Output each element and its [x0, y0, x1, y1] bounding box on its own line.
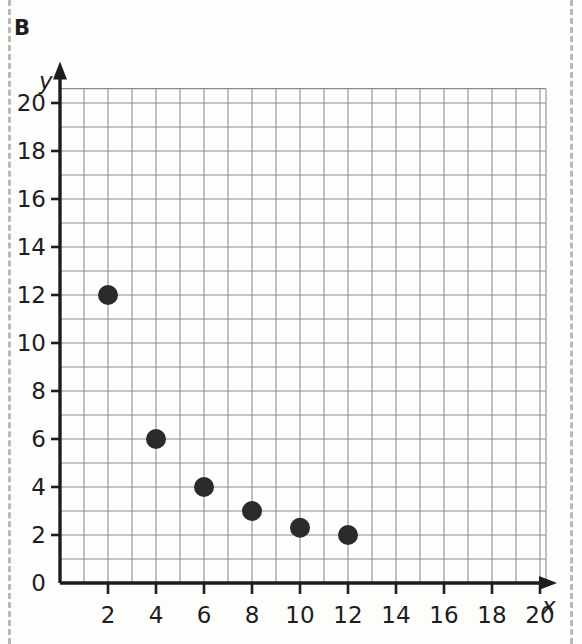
data-point — [290, 518, 310, 538]
y-tick-label: 12 — [17, 282, 46, 308]
y-tick-label: 0 — [31, 570, 46, 596]
figure-panel: B 024681012141618202468101214161820 yx — [0, 0, 582, 644]
y-tick-label: 8 — [31, 378, 46, 404]
y-tick-label: 14 — [17, 234, 46, 260]
x-axis-label: x — [541, 593, 556, 619]
axis-tick-labels: 024681012141618202468101214161820 — [17, 90, 555, 629]
x-tick-label: 4 — [149, 602, 164, 628]
y-tick-label: 2 — [31, 522, 46, 548]
x-tick-label: 2 — [101, 602, 116, 628]
y-axis-label: y — [38, 68, 53, 94]
x-tick-label: 6 — [197, 602, 212, 628]
y-tick-label: 6 — [31, 426, 46, 452]
y-tick-label: 4 — [31, 474, 46, 500]
plot-gridlines — [60, 89, 546, 583]
data-point — [194, 477, 214, 497]
scatter-plot: 024681012141618202468101214161820 yx — [0, 0, 582, 644]
x-tick-label: 12 — [333, 602, 362, 628]
y-tick-label: 16 — [17, 186, 46, 212]
x-tick-label: 10 — [285, 602, 314, 628]
x-tick-label: 18 — [477, 602, 506, 628]
data-point — [98, 285, 118, 305]
data-point — [242, 501, 262, 521]
x-tick-label: 16 — [429, 602, 458, 628]
y-tick-label: 18 — [17, 138, 46, 164]
x-tick-label: 8 — [245, 602, 260, 628]
data-point — [338, 525, 358, 545]
y-tick-label: 10 — [17, 330, 46, 356]
data-point — [146, 429, 166, 449]
x-tick-label: 14 — [381, 602, 410, 628]
